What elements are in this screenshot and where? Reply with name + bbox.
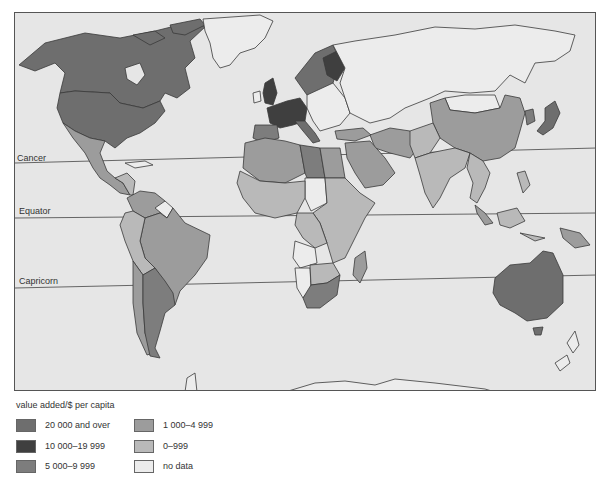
new-zealand-region (555, 331, 579, 371)
japan-region (537, 101, 560, 135)
new-guinea-region (560, 228, 590, 248)
legend-item-20000-and-over: 20 000 and over (16, 418, 110, 432)
legend-label: 20 000 and over (45, 420, 110, 430)
legend-swatch (134, 419, 154, 432)
legend-item-5000-9999: 5 000–9 999 (16, 459, 95, 473)
legend-swatch (134, 460, 154, 473)
legend-item-1000-4999: 1 000–4 999 (134, 418, 213, 432)
legend-label: 0–999 (163, 441, 188, 451)
capricorn-label: Capricorn (19, 276, 58, 286)
greenland-region (203, 15, 273, 68)
turkey-region (335, 128, 371, 141)
india-region (415, 148, 470, 208)
legend-label: 10 000–19 999 (45, 441, 105, 451)
legend-item-0-999: 0–999 (134, 439, 188, 453)
indonesia-region (497, 208, 545, 241)
legend-swatch (16, 419, 36, 432)
ireland-region (253, 91, 261, 103)
madagascar-region (353, 251, 367, 283)
australia-region (493, 251, 563, 321)
philippines-region (517, 171, 530, 193)
legend-label: 5 000–9 999 (45, 461, 95, 471)
north-africa-west (243, 138, 305, 183)
legend-item-no-data: no data (134, 459, 193, 473)
equator-label: Equator (19, 206, 51, 216)
legend-label: no data (163, 461, 193, 471)
legend-swatch (134, 440, 154, 453)
korea-region (525, 109, 535, 125)
malaysia-region (475, 205, 493, 225)
caribbean-islands (125, 161, 153, 168)
tasmania-region (533, 327, 543, 335)
map-canvas (15, 13, 596, 391)
legend-swatch (16, 460, 36, 473)
legend-title: value added/$ per capita (16, 400, 115, 410)
antarctica-region (185, 373, 495, 391)
legend-item-10000-19999: 10 000–19 999 (16, 439, 105, 453)
legend-swatch (16, 440, 36, 453)
cancer-label: Cancer (17, 153, 46, 163)
world-map: Cancer Equator Capricorn (14, 12, 596, 391)
uk-region (263, 78, 277, 105)
legend-label: 1 000–4 999 (163, 420, 213, 430)
